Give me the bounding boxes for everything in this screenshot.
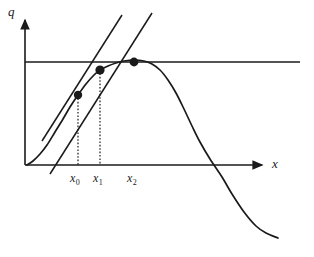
tick-label-x1: x1 bbox=[93, 172, 102, 184]
newton-method-figure: q x x0 x1 x2 bbox=[0, 0, 314, 257]
tick-label-x2-base: x bbox=[127, 171, 132, 185]
tick-label-x0-sub: 0 bbox=[76, 178, 80, 187]
tick-label-x0-base: x bbox=[70, 171, 75, 185]
tangent-line-at-x1 bbox=[50, 13, 152, 174]
point-x2 bbox=[130, 58, 139, 67]
figure-canvas bbox=[0, 0, 314, 257]
point-x1 bbox=[95, 65, 104, 74]
point-x0 bbox=[74, 91, 82, 99]
y-axis-label: q bbox=[8, 5, 15, 18]
objective-curve bbox=[27, 60, 278, 238]
tick-label-x0: x0 bbox=[70, 172, 79, 184]
tick-label-x2-sub: 2 bbox=[133, 178, 137, 187]
x-axis-label: x bbox=[272, 157, 278, 170]
tick-label-x2: x2 bbox=[127, 172, 136, 184]
tick-label-x1-sub: 1 bbox=[99, 178, 103, 187]
tick-label-x1-base: x bbox=[93, 171, 98, 185]
